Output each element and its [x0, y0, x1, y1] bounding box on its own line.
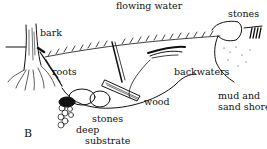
stones-drawing — [59, 89, 110, 107]
panel-letter: B — [24, 129, 32, 139]
sand-dots-drawing — [224, 47, 251, 67]
label-backwaters: backwaters — [174, 67, 229, 77]
label-bark: bark — [40, 28, 62, 38]
label-deep: deep — [76, 125, 99, 135]
label-substrate: substrate — [85, 136, 130, 146]
label-stones-top: stones — [228, 9, 259, 19]
label-mud-line2: sand shore — [218, 102, 267, 112]
label-wood: wood — [144, 97, 170, 107]
water-surface-drawing — [45, 31, 220, 57]
label-stones-bottom: stones — [92, 114, 123, 124]
label-mud-line1: mud and — [218, 91, 260, 101]
wood-drawing — [102, 42, 140, 101]
substrate-drawing — [58, 105, 74, 128]
label-roots: roots — [52, 67, 77, 77]
label-flowing-water: flowing water — [116, 1, 182, 11]
